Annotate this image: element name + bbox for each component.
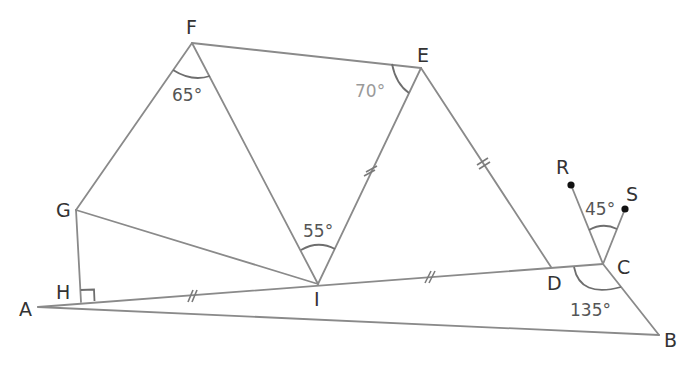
- equal-length-marks: [188, 158, 490, 302]
- label-I: I: [314, 288, 320, 310]
- point-dot-R: [567, 181, 574, 188]
- segment-CB: [603, 264, 659, 335]
- segment-GF: [76, 43, 192, 210]
- angle-arcs: [173, 64, 621, 290]
- angle-label-E: 70°: [355, 81, 385, 101]
- geometry-diagram: F E G H A I D C B R S 65° 70° 55° 45° 13…: [0, 0, 695, 366]
- segment-FI: [192, 43, 318, 284]
- label-F: F: [186, 16, 197, 38]
- label-C: C: [617, 256, 630, 278]
- angle-arc-I: [301, 245, 335, 250]
- label-G: G: [56, 199, 71, 221]
- right-angle-marker-H: [81, 290, 95, 302]
- segment-CR: [571, 185, 603, 264]
- label-R: R: [556, 156, 569, 178]
- angle-arc-F: [173, 70, 210, 78]
- angle-label-RCS: 45°: [585, 199, 615, 219]
- segment-GI: [76, 210, 318, 284]
- label-E: E: [417, 44, 429, 66]
- label-H: H: [56, 281, 70, 303]
- angle-arc-E: [392, 64, 409, 93]
- segment-ED: [421, 68, 551, 267]
- label-B: B: [664, 329, 677, 351]
- label-S: S: [626, 183, 638, 205]
- label-D: D: [547, 272, 562, 294]
- segments: [38, 43, 659, 335]
- segment-AB: [38, 307, 659, 335]
- angle-label-F: 65°: [172, 85, 202, 105]
- segment-AC: [38, 264, 603, 307]
- label-A: A: [19, 298, 32, 320]
- angle-label-I: 55°: [303, 221, 333, 241]
- angle-arc-C-top: [589, 226, 617, 230]
- angle-label-DCB: 135°: [570, 300, 611, 320]
- point-dot-S: [621, 205, 628, 212]
- segment-FE: [192, 43, 421, 68]
- segment-GH: [76, 210, 81, 302]
